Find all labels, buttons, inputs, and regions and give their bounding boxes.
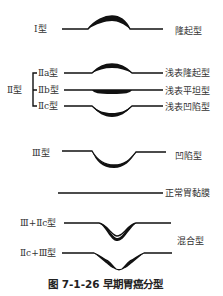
type-2b-profile [64,90,163,94]
type-3-profile [62,151,166,168]
type-2c-profile [64,106,163,117]
normal-mucosa-label: 正常胃黏膜 [165,188,210,198]
type-1-label: Ⅰ型 [34,24,47,34]
type-2c-label: Ⅱc型 [38,101,58,111]
type-2a-profile [64,64,163,73]
figure-caption: 图 7-1-26 早期胃癌分型 [48,276,163,291]
mixed-type-label: 混合型 [177,236,204,246]
type-2-group-label: Ⅱ型 [7,85,22,95]
type-2a-label: Ⅱa型 [38,68,58,78]
type-3-name: 凹陷型 [175,151,202,161]
type-2c-name: 浅表凹陷型 [165,102,210,112]
type-2c-plus-3-label: Ⅱc+Ⅲ型 [20,248,56,258]
type-2a-name: 浅表隆起型 [165,68,210,78]
type-2b-label: Ⅱb型 [38,85,59,95]
type-3-label: Ⅲ型 [32,148,50,158]
type-2-bracket [33,73,37,106]
type-1-name: 隆起型 [175,26,202,36]
type-2b-name: 浅表平坦型 [165,86,210,96]
type-3-plus-2c-profile [64,223,171,241]
type-1-profile [62,16,163,29]
type-2c-plus-3-profile [62,253,172,270]
type-3-plus-2c-label: Ⅲ+Ⅱc型 [20,218,56,228]
